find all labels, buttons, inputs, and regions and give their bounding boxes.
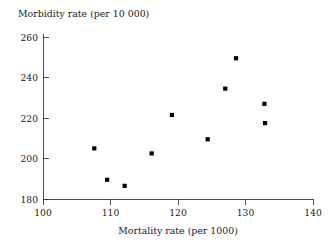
data-point xyxy=(234,56,238,60)
data-points-group xyxy=(92,56,267,188)
x-tick-label-100: 100 xyxy=(34,207,52,218)
data-point xyxy=(223,87,227,91)
data-point xyxy=(105,178,109,182)
x-tick-label-120: 120 xyxy=(169,207,187,218)
x-axis-ticks xyxy=(43,199,313,205)
y-tick-label-200: 200 xyxy=(20,153,38,164)
y-axis-tick-labels: 260 240 220 200 180 xyxy=(20,32,38,205)
y-tick-label-240: 240 xyxy=(20,72,38,83)
x-tick-label-110: 110 xyxy=(102,207,120,218)
data-point xyxy=(123,184,127,188)
y-axis-ticks xyxy=(43,37,49,199)
x-axis-title: Mortality rate (per 1000) xyxy=(118,225,238,236)
data-point xyxy=(206,137,210,141)
y-axis-title: Morbidity rate (per 10 000) xyxy=(18,8,149,19)
y-tick-label-260: 260 xyxy=(20,32,38,43)
y-tick-label-180: 180 xyxy=(20,194,38,205)
chart-canvas: Morbidity rate (per 10 000) 260 240 220 … xyxy=(0,0,332,246)
data-point xyxy=(263,121,267,125)
data-point xyxy=(150,151,154,155)
scatter-plot-figure: Morbidity rate (per 10 000) 260 240 220 … xyxy=(0,0,332,246)
x-tick-label-140: 140 xyxy=(304,207,322,218)
data-point xyxy=(92,146,96,150)
data-point xyxy=(170,113,174,117)
x-tick-label-130: 130 xyxy=(237,207,255,218)
data-point xyxy=(262,102,266,106)
y-tick-label-220: 220 xyxy=(20,113,38,124)
x-axis-tick-labels: 100 110 120 130 140 xyxy=(34,207,322,218)
